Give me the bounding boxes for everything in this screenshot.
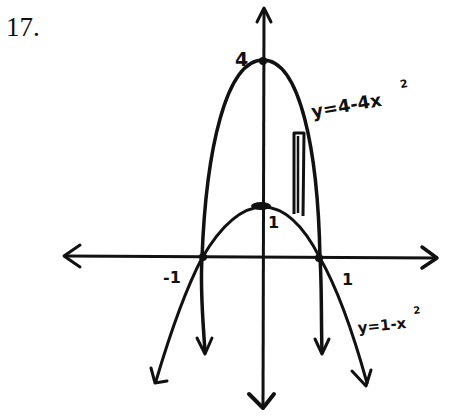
vertex-outer-dot [259, 57, 267, 65]
inner-equation-label: y=1-x 2 [356, 304, 422, 337]
svg-text:2: 2 [399, 77, 409, 91]
x-tick-neg1-label: -1 [163, 268, 181, 287]
parabola-diagram: 4 1 -1 1 y=4-4x 2 y=1-x 2 [0, 0, 460, 417]
intersection-right-dot [315, 254, 323, 262]
x-tick-1-label: 1 [342, 270, 353, 289]
outer-equation-label: y=4-4x 2 [308, 77, 411, 122]
representative-strip [294, 133, 304, 216]
arrow-lower-right-icon [352, 370, 371, 386]
y-tick-4-label: 4 [235, 48, 248, 70]
svg-text:2: 2 [413, 304, 421, 316]
arrow-down-icon [249, 394, 274, 408]
inner-parabola-curve [151, 207, 371, 386]
vertex-inner-dot [251, 202, 271, 210]
y-tick-1-label: 1 [268, 213, 279, 232]
svg-text:y=1-x: y=1-x [357, 314, 408, 337]
svg-text:y=4-4x: y=4-4x [310, 89, 384, 122]
intersection-left-dot [199, 253, 207, 261]
x-axis [64, 245, 437, 268]
